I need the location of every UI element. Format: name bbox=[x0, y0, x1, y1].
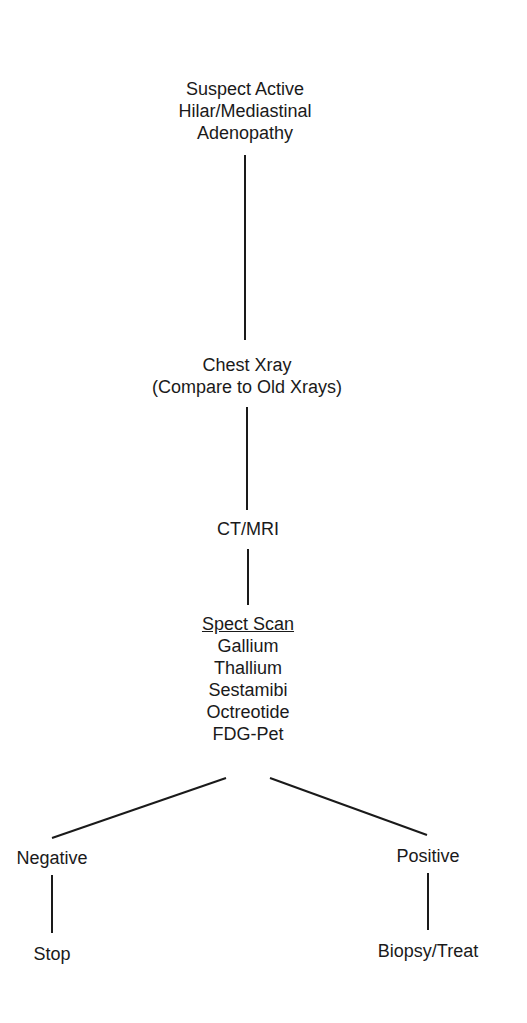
node-biopsy-treat: Biopsy/Treat bbox=[358, 940, 498, 962]
node-chest-xray: Chest Xray (Compare to Old Xrays) bbox=[122, 354, 372, 398]
edge-spect-positive bbox=[270, 778, 427, 835]
node-positive: Positive bbox=[378, 845, 478, 867]
node-line: Gallium bbox=[168, 635, 328, 657]
node-line: Chest Xray bbox=[122, 354, 372, 376]
node-line: Octreotide bbox=[168, 701, 328, 723]
node-line: Adenopathy bbox=[145, 122, 345, 144]
node-line: Stop bbox=[12, 943, 92, 965]
node-suspect-adenopathy: Suspect Active Hilar/Mediastinal Adenopa… bbox=[145, 78, 345, 144]
node-line: Suspect Active bbox=[145, 78, 345, 100]
node-line: (Compare to Old Xrays) bbox=[122, 376, 372, 398]
node-ct-mri: CT/MRI bbox=[178, 518, 318, 540]
edge-spect-negative bbox=[52, 778, 226, 838]
node-line: CT/MRI bbox=[178, 518, 318, 540]
node-negative: Negative bbox=[2, 847, 102, 869]
node-stop: Stop bbox=[12, 943, 92, 965]
node-line: Positive bbox=[378, 845, 478, 867]
node-line: Sestamibi bbox=[168, 679, 328, 701]
flowchart-connectors bbox=[0, 0, 527, 1023]
node-spect-scan: Spect Scan Gallium Thallium Sestamibi Oc… bbox=[168, 613, 328, 745]
node-line: Hilar/Mediastinal bbox=[145, 100, 345, 122]
node-line: FDG-Pet bbox=[168, 723, 328, 745]
node-line: Biopsy/Treat bbox=[358, 940, 498, 962]
node-heading: Spect Scan bbox=[168, 613, 328, 635]
node-line: Thallium bbox=[168, 657, 328, 679]
node-line: Negative bbox=[2, 847, 102, 869]
